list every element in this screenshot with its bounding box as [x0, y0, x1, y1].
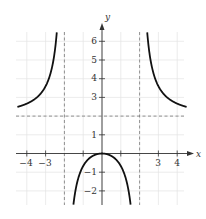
y-tick-label: 4 — [91, 73, 97, 83]
y-tick-label: −1 — [84, 167, 97, 177]
grid-lines — [16, 32, 184, 205]
right-branch-curve — [147, 32, 186, 107]
y-tick-label: 5 — [91, 55, 97, 65]
y-tick-label: 6 — [91, 36, 97, 46]
x-tick-label: −3 — [38, 158, 52, 168]
y-tick-label: 1 — [91, 130, 97, 140]
left-branch-curve — [17, 32, 56, 107]
y-tick-label: 3 — [91, 92, 97, 102]
x-tick-label: −4 — [19, 158, 33, 168]
y-tick-label: −2 — [84, 186, 97, 196]
rational-function-graph: x y −4 −3 3 4 6 5 4 3 1 −1 −2 — [0, 0, 206, 219]
x-tick-label: 4 — [174, 158, 180, 168]
x-tick-label: 3 — [155, 158, 161, 168]
y-axis-label: y — [104, 12, 111, 22]
asymptote-lines — [16, 32, 184, 205]
y-axis-arrow-icon — [100, 23, 105, 30]
x-axis-arrow-icon — [187, 151, 194, 156]
x-axis-label: x — [196, 149, 201, 159]
